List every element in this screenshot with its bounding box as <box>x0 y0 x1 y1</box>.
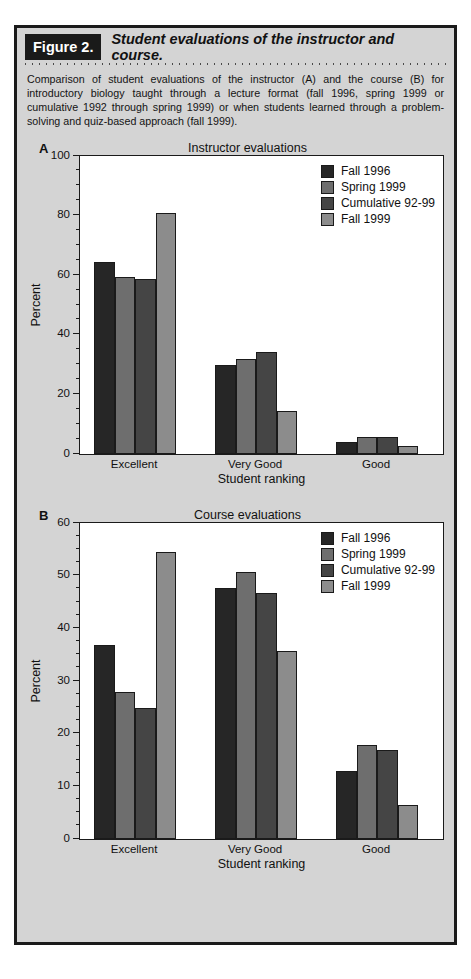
bar <box>336 771 357 839</box>
ytick-label: 40 <box>57 621 70 633</box>
xlabel-b: Student ranking <box>79 857 444 871</box>
legend-label: Spring 1999 <box>341 180 406 194</box>
legend-label: Fall 1996 <box>341 531 390 545</box>
xtick-label: Good <box>362 458 390 470</box>
xtick-labels-a: ExcellentVery GoodGood <box>79 455 444 472</box>
bar <box>377 750 398 839</box>
plot-area-a: Fall 1996Spring 1999Cumulative 92-99Fall… <box>79 155 444 455</box>
bar <box>336 442 357 454</box>
plot-row-a: Percent 020406080100 Fall 1996Spring 199… <box>27 155 444 455</box>
bar <box>256 352 277 454</box>
bar <box>115 692 136 838</box>
bar <box>236 359 257 453</box>
ytick-label: 10 <box>57 779 70 791</box>
chart-panel-a: A Instructor evaluations Percent 0204060… <box>27 141 444 486</box>
bar <box>277 651 298 839</box>
figure-container: Figure 2. Student evaluations of the ins… <box>14 25 457 945</box>
bar <box>277 411 298 454</box>
ytick-label: 80 <box>57 208 70 220</box>
legend-swatch-icon <box>321 213 334 226</box>
bar <box>398 446 419 453</box>
ylabel-cell-a: Percent <box>27 155 45 455</box>
xtick-label: Good <box>362 843 390 855</box>
bar <box>135 708 156 838</box>
bar <box>236 572 257 838</box>
chart-panel-b: B Course evaluations Percent 01020304050… <box>27 508 444 871</box>
legend-item: Spring 1999 <box>321 547 435 562</box>
xtick-label: Excellent <box>111 458 158 470</box>
panel-letter-b: B <box>39 508 48 523</box>
plot-area-b: Fall 1996Spring 1999Cumulative 92-99Fall… <box>79 522 444 840</box>
bar <box>398 805 419 839</box>
legend-item: Fall 1996 <box>321 164 435 179</box>
legend-label: Cumulative 92-99 <box>341 563 435 577</box>
chart-title-a: Instructor evaluations <box>27 141 444 155</box>
legend-item: Fall 1996 <box>321 531 435 546</box>
legend-a: Fall 1996Spring 1999Cumulative 92-99Fall… <box>321 164 435 227</box>
xtick-label: Very Good <box>228 458 282 470</box>
ytick-label: 30 <box>57 674 70 686</box>
figure-title: Student evaluations of the instructor an… <box>101 34 446 60</box>
ytick-labels-a: 020406080100 <box>45 155 73 455</box>
figure-header: Figure 2. Student evaluations of the ins… <box>25 34 446 60</box>
ytick-label: 50 <box>57 568 70 580</box>
xtick-label: Excellent <box>111 843 158 855</box>
legend-item: Fall 1999 <box>321 579 435 594</box>
legend-item: Cumulative 92-99 <box>321 563 435 578</box>
legend-item: Fall 1999 <box>321 212 435 227</box>
xtick-label: Very Good <box>228 843 282 855</box>
ytick-label: 100 <box>51 149 70 161</box>
legend-label: Spring 1999 <box>341 547 406 561</box>
bar <box>215 588 236 838</box>
legend-item: Spring 1999 <box>321 180 435 195</box>
xlabel-a: Student ranking <box>79 472 444 486</box>
bar <box>94 262 115 454</box>
bar <box>357 437 378 453</box>
ytick-label: 60 <box>57 268 70 280</box>
legend-swatch-icon <box>321 181 334 194</box>
figure-number-badge: Figure 2. <box>25 34 101 60</box>
legend-item: Cumulative 92-99 <box>321 196 435 211</box>
bar <box>94 645 115 838</box>
bar <box>156 213 177 453</box>
legend-label: Fall 1999 <box>341 579 390 593</box>
ytick-label: 60 <box>57 516 70 528</box>
bar <box>135 279 156 453</box>
bar <box>357 745 378 839</box>
legend-swatch-icon <box>321 165 334 178</box>
legend-swatch-icon <box>321 548 334 561</box>
chart-title-b: Course evaluations <box>27 508 444 522</box>
ytick-labels-b: 0102030405060 <box>45 522 73 840</box>
ytick-label: 20 <box>57 726 70 738</box>
ylabel-b: Percent <box>29 659 43 702</box>
bar <box>156 552 177 839</box>
plot-row-b: Percent 0102030405060 Fall 1996Spring 19… <box>27 522 444 840</box>
bar <box>115 277 136 454</box>
legend-swatch-icon <box>321 564 334 577</box>
panel-letter-a: A <box>39 141 48 156</box>
legend-label: Cumulative 92-99 <box>341 196 435 210</box>
ytick-label: 0 <box>64 832 70 844</box>
legend-swatch-icon <box>321 197 334 210</box>
legend-b: Fall 1996Spring 1999Cumulative 92-99Fall… <box>321 531 435 594</box>
ylabel-cell-b: Percent <box>27 522 45 840</box>
ytick-label: 40 <box>57 327 70 339</box>
legend-swatch-icon <box>321 580 334 593</box>
bar <box>215 365 236 454</box>
ytick-label: 0 <box>64 447 70 459</box>
xtick-labels-b: ExcellentVery GoodGood <box>79 840 444 857</box>
figure-caption: Comparison of student evaluations of the… <box>27 72 444 129</box>
legend-label: Fall 1996 <box>341 164 390 178</box>
legend-label: Fall 1999 <box>341 212 390 226</box>
bar <box>256 593 277 838</box>
ytick-label: 20 <box>57 387 70 399</box>
legend-swatch-icon <box>321 532 334 545</box>
bar <box>377 437 398 453</box>
ylabel-a: Percent <box>29 283 43 326</box>
